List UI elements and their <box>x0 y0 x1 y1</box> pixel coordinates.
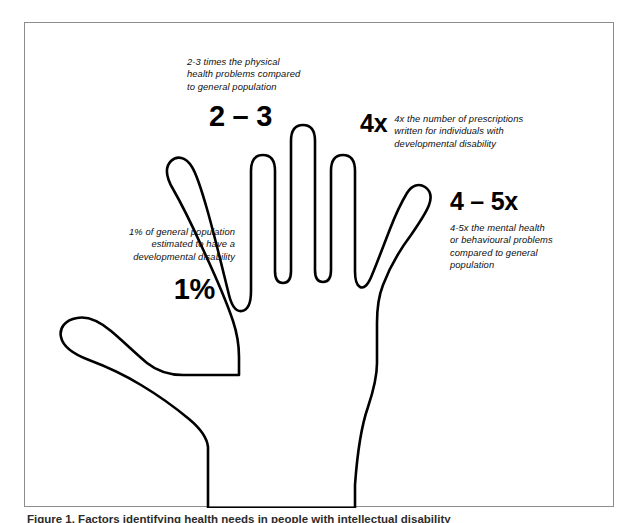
callout-mental-health-text: 4-5x the mental health or behavioural pr… <box>450 222 634 272</box>
stat-mental-health: 4 – 5x <box>450 189 634 214</box>
stat-prevalence: 1% <box>174 275 215 304</box>
figure-caption: Figure 1. Factors identifying health nee… <box>27 513 587 523</box>
stat-prescriptions: 4x <box>360 109 387 136</box>
callout-prescriptions: 4x 4x the number of prescriptions writte… <box>360 109 634 150</box>
callout-prevalence-text: 1% of general population estimated to ha… <box>65 226 235 263</box>
stat-physical-health: 2 – 3 <box>209 102 377 131</box>
callout-prevalence: 1% of general population estimated to ha… <box>65 226 235 304</box>
callout-mental-health: 4 – 5x 4-5x the mental health or behavio… <box>450 189 634 272</box>
hand-outline-path <box>61 125 431 508</box>
callout-physical-health: 2-3 times the physical health problems c… <box>187 56 377 131</box>
callout-physical-health-text: 2-3 times the physical health problems c… <box>187 56 377 93</box>
figure-frame: 2-3 times the physical health problems c… <box>24 22 614 507</box>
callout-prescriptions-text: 4x the number of prescriptions written f… <box>394 109 634 150</box>
